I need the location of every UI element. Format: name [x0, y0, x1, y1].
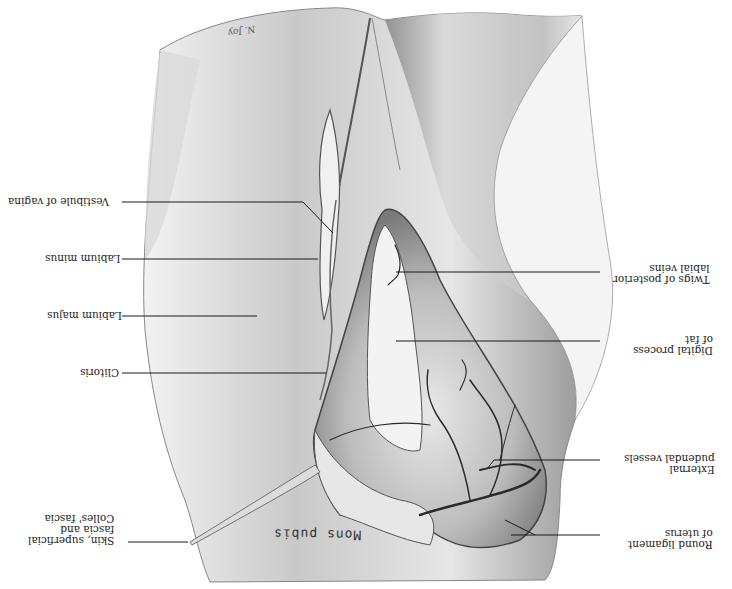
label-vestibule-of-vagina: Vestibule of vagina	[8, 196, 109, 207]
label-posterior-labial-veins: Twigs of posterior labial veins	[613, 263, 710, 285]
mons-pubis-label: Mons pubis	[273, 526, 362, 543]
label-clitoris: Clitoris	[80, 367, 119, 378]
label-skin-superficial-fascia: Skin, superficial fascia and Colles' fas…	[28, 513, 114, 546]
label-digital-process-of-fat: Digital process of fat	[633, 334, 713, 356]
illustration-drawing	[0, 0, 732, 589]
label-round-ligament-of-uterus: Round ligament of uterus	[628, 528, 713, 550]
label-labium-majus: Labium majus	[47, 310, 122, 321]
anatomical-illustration: N. Joy Mons pubis Vestibule of vagina La…	[0, 0, 732, 589]
label-external-pudendal-vessels: External pudendal vessels	[624, 453, 715, 475]
label-labium-minus: Labium minus	[45, 253, 121, 264]
